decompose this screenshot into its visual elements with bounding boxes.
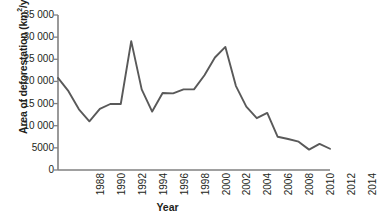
x-axis-title: Year [0, 202, 335, 213]
x-axis-tick-label: 2012 [347, 173, 357, 207]
x-axis-tick-label: 2014 [368, 173, 378, 207]
